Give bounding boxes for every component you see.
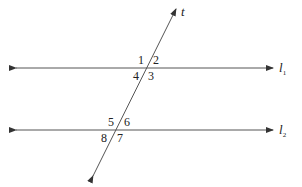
angle-1-label: 1 xyxy=(138,53,144,67)
angle-2-label: 2 xyxy=(153,53,159,67)
transversal-label: t xyxy=(181,4,185,19)
parallel-lines-diagram: t l1 l2 1 2 3 4 5 6 7 8 xyxy=(0,0,302,187)
line-l2-label: l2 xyxy=(279,122,287,139)
angle-4-label: 4 xyxy=(133,69,139,83)
transversal-t xyxy=(93,9,176,176)
angle-6-label: 6 xyxy=(124,115,130,129)
angle-5-label: 5 xyxy=(108,115,114,129)
angle-3-label: 3 xyxy=(148,69,154,83)
angle-8-label: 8 xyxy=(101,131,107,145)
angle-7-label: 7 xyxy=(117,131,123,145)
line-l1-label: l1 xyxy=(279,60,287,77)
